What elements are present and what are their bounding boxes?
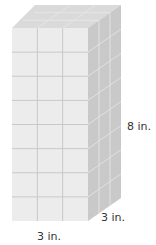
width-label: 3 in. — [37, 231, 61, 242]
height-label: 8 in. — [127, 121, 151, 132]
depth-label: 3 in. — [101, 212, 125, 223]
